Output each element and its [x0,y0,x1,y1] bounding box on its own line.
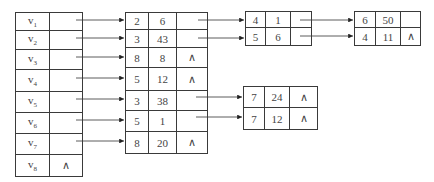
node-field-a: 3 [126,91,149,111]
node-row: 5 1 [126,111,208,132]
node-field-b: 12 [149,68,177,91]
node-row: 4 11 ∧ [355,28,421,46]
node-next [177,91,208,111]
node-row: 6 50 [355,12,421,28]
vertex-label: v3 [16,50,50,70]
node-field-a: 4 [246,12,266,28]
vertex-pointer [50,13,83,31]
node-field-b: 11 [376,28,401,46]
node-next [177,111,208,132]
vertex-row: v8 ∧ [16,155,83,177]
node-next: ∧ [401,28,421,46]
vertex-label: v6 [16,113,50,134]
node-field-b: 6 [149,13,177,30]
vertex-row: v2 [16,31,83,50]
node-field-a: 2 [126,13,149,30]
node-field-a: 6 [355,12,376,28]
vertex-label: v4 [16,70,50,92]
node-field-a: 4 [355,28,376,46]
node-field-a: 8 [126,132,149,154]
node-field-a: 7 [244,108,265,130]
node-row: 2 6 [126,13,208,30]
vertex-pointer [50,50,83,70]
node-row: 7 12 ∧ [244,108,318,130]
node-field-b: 8 [149,48,177,68]
vertex-row: v4 [16,70,83,92]
node-field-a: 5 [126,111,149,132]
node-field-b: 50 [376,12,401,28]
node-next: ∧ [290,87,318,108]
node-field-a: 3 [126,30,149,48]
node-field-b: 12 [265,108,290,130]
node-field-b: 1 [266,12,291,28]
vertex-pointer [50,31,83,50]
vertex-label: v1 [16,13,50,31]
node-field-a: 8 [126,48,149,68]
node-row: 4 1 [246,12,312,28]
second-nodes-top-table: 4 1 5 6 [245,11,312,46]
node-row: 5 6 [246,28,312,46]
node-field-a: 5 [246,28,266,46]
vertex-row: v5 [16,92,83,113]
node-row: 5 12 ∧ [126,68,208,91]
vertex-label: v5 [16,92,50,113]
vertex-pointer: ∧ [50,155,83,177]
node-field-b: 20 [149,132,177,154]
node-field-b: 24 [265,87,290,108]
node-next: ∧ [177,48,208,68]
vertex-label: v7 [16,134,50,155]
node-next: ∧ [177,132,208,154]
node-row: 8 8 ∧ [126,48,208,68]
first-nodes-table: 2 6 3 43 8 8 ∧ 5 12 ∧ 3 38 5 1 [125,12,208,154]
node-row: 8 20 ∧ [126,132,208,154]
vertex-row: v7 [16,134,83,155]
vertex-row: v6 [16,113,83,134]
node-next [291,12,312,28]
vertex-label: v2 [16,31,50,50]
node-row: 3 38 [126,91,208,111]
node-field-a: 7 [244,87,265,108]
node-next: ∧ [290,108,318,130]
node-field-b: 43 [149,30,177,48]
node-next [177,13,208,30]
node-row: 3 43 [126,30,208,48]
vertex-row: v1 [16,13,83,31]
node-next [401,12,421,28]
node-next [291,28,312,46]
node-field-b: 38 [149,91,177,111]
third-nodes-top-table: 6 50 4 11 ∧ [354,11,421,46]
node-field-b: 1 [149,111,177,132]
second-nodes-mid-table: 7 24 ∧ 7 12 ∧ [243,86,318,130]
node-next [177,30,208,48]
vertex-pointer [50,92,83,113]
vertex-table: v1 v2 v3 v4 v5 v6 v7 v8 ∧ [15,12,83,177]
node-row: 7 24 ∧ [244,87,318,108]
node-next: ∧ [177,68,208,91]
vertex-label: v8 [16,155,50,177]
vertex-pointer [50,134,83,155]
vertex-pointer [50,70,83,92]
node-field-a: 5 [126,68,149,91]
vertex-row: v3 [16,50,83,70]
vertex-pointer [50,113,83,134]
node-field-b: 6 [266,28,291,46]
